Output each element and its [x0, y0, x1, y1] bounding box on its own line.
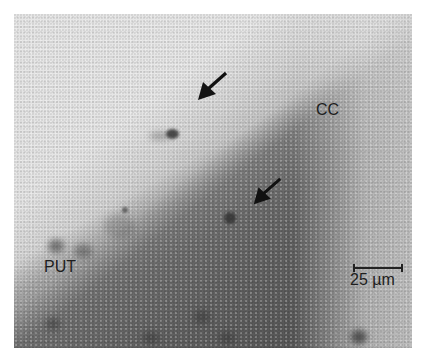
dark-spot [194, 310, 210, 324]
dark-spot [219, 332, 235, 344]
dark-spot [122, 207, 128, 213]
dark-spot [142, 332, 160, 344]
label-put: PUT [44, 258, 76, 276]
labeled-cell-upper-process [149, 132, 171, 140]
dark-spot [48, 239, 64, 253]
micrograph-image: CC PUT 25 µm [14, 14, 412, 348]
scale-bar-label: 25 µm [350, 271, 395, 289]
arrow-icon [250, 176, 284, 210]
dark-spot [46, 318, 60, 330]
scale-bar-right-tick [401, 264, 403, 272]
arrow-icon [194, 70, 230, 106]
dark-spot [74, 244, 92, 258]
dark-spot [104, 214, 134, 238]
label-cc: CC [316, 101, 339, 119]
grain-texture [14, 14, 412, 348]
dark-spot [351, 330, 367, 344]
labeled-cell-lower [224, 212, 236, 224]
scale-bar: 25 µm [353, 264, 405, 294]
scale-bar-line [353, 267, 403, 269]
